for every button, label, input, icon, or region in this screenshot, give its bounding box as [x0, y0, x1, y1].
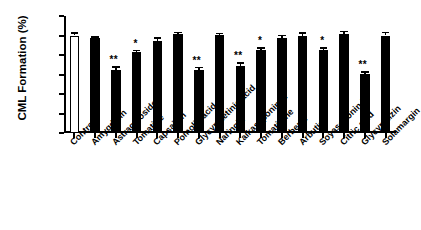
error-bar-cap	[71, 32, 79, 34]
y-tick	[59, 74, 64, 76]
significance-marker: **	[109, 55, 118, 65]
y-tick	[59, 15, 64, 17]
error-bar-cap	[257, 47, 265, 49]
bar-amygdalin	[90, 16, 100, 133]
error-bar-cap	[299, 32, 307, 34]
error-bar-cap	[195, 67, 203, 69]
y-tick	[59, 132, 64, 134]
significance-marker: *	[258, 36, 262, 46]
bar-soyasaponin-i	[319, 16, 329, 133]
error-bar-cap	[216, 33, 224, 35]
error-bar-cap	[382, 32, 390, 34]
significance-marker: **	[358, 60, 367, 70]
y-tick	[59, 54, 64, 56]
y-tick	[59, 113, 64, 115]
error-bar-cap	[133, 50, 141, 52]
y-axis-line	[64, 16, 66, 133]
significance-marker: *	[320, 36, 324, 46]
bar-rect	[70, 36, 80, 134]
error-bar-cap	[174, 32, 182, 34]
error-bar-cap	[278, 35, 286, 37]
error-bar-cap	[340, 31, 348, 33]
y-tick	[59, 93, 64, 95]
error-bar-cap	[91, 36, 99, 38]
y-tick	[59, 35, 64, 37]
error-bar-cap	[320, 47, 328, 49]
error-bar-cap	[361, 71, 369, 73]
error-bar-cap	[237, 62, 245, 64]
y-axis-title: CML Formation (%)	[16, 0, 28, 138]
error-bar-cap	[112, 66, 120, 68]
significance-marker: *	[133, 39, 137, 49]
error-bar-cap	[154, 37, 162, 39]
significance-marker: **	[234, 51, 243, 61]
significance-marker: **	[192, 56, 201, 66]
